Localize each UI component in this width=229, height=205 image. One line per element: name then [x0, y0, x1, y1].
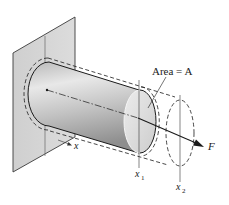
x1-subscript: 1	[141, 174, 145, 182]
force-label: F	[207, 140, 215, 152]
bar-diagram: Area = A F x x 1 x 2	[0, 0, 229, 205]
x1-label: x	[134, 168, 140, 179]
area-leader-line	[148, 77, 166, 108]
area-label: Area = A	[152, 65, 192, 77]
origin-point	[46, 89, 48, 91]
x2-subscript: 2	[182, 187, 186, 195]
x2-label: x	[175, 181, 181, 192]
x-axis-label: x	[73, 140, 79, 151]
